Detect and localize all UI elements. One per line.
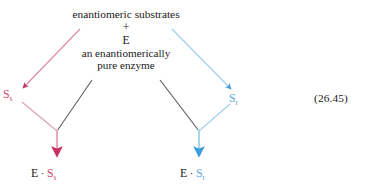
reactant-line-substrates: enantiomeric substrates: [0, 8, 252, 21]
connector-s-left-to-junction: [22, 102, 57, 131]
species-right-subscript: r: [236, 98, 239, 107]
product-left-operator: ·: [38, 167, 47, 179]
connector-enzyme-to-left-junction: [57, 80, 92, 131]
reactant-line-enzyme-symbol: E: [0, 34, 252, 47]
reactant-text-block: enantiomeric substrates + E an enantiome…: [0, 8, 252, 72]
reaction-scheme-figure: enantiomeric substrates + E an enantiome…: [0, 0, 374, 189]
species-left-subscript: s: [10, 94, 13, 103]
connector-s-right-to-junction: [199, 104, 230, 131]
product-label-left: E·Ss: [31, 167, 56, 180]
reactant-line-pure-enzyme: pure enzyme: [0, 59, 252, 72]
reactant-line-enantiomerically: an enantiomerically: [0, 47, 252, 60]
product-right-subscript: r: [202, 173, 204, 182]
species-label-s-left: Ss: [3, 88, 13, 101]
species-label-s-right: Sr: [229, 92, 238, 105]
species-right-symbol: S: [229, 91, 236, 105]
product-label-right: E·Sr: [180, 167, 205, 180]
product-right-operator: ·: [187, 167, 196, 179]
reactant-line-plus: +: [0, 21, 252, 34]
connector-enzyme-to-right-junction: [160, 80, 199, 131]
equation-number: (26.45): [314, 92, 348, 105]
species-left-symbol: S: [3, 87, 10, 101]
product-left-subscript: s: [53, 173, 56, 182]
